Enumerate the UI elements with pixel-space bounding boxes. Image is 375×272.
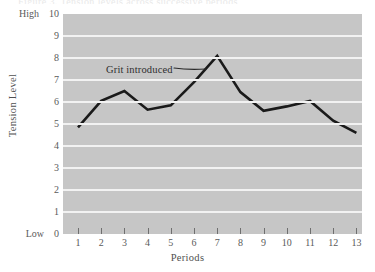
- gridline: [63, 101, 362, 103]
- gridline: [63, 167, 362, 169]
- x-tick-label-3: 3: [112, 237, 136, 248]
- x-tick-label-7: 7: [205, 237, 229, 248]
- y-axis: Tension Level High 10987654321Low 0: [0, 0, 59, 272]
- plot-area: [63, 14, 362, 234]
- y-tick-label-2: 2: [3, 185, 59, 195]
- y-tick-label-6: 6: [3, 97, 59, 107]
- x-tick-label-1: 1: [66, 237, 90, 248]
- x-tick-mark-8: [240, 228, 241, 234]
- y-tick-label-9: 9: [3, 31, 59, 41]
- gridline: [63, 57, 362, 59]
- gridline: [63, 35, 362, 37]
- x-tick-label-9: 9: [252, 237, 276, 248]
- chart-container: Figure 3. Tension levels across successi…: [0, 0, 375, 272]
- gridline: [63, 211, 362, 213]
- x-tick-label-6: 6: [182, 237, 206, 248]
- x-tick-mark-12: [333, 228, 334, 234]
- gridline: [63, 123, 362, 125]
- x-tick-mark-4: [148, 228, 149, 234]
- x-tick-mark-7: [217, 228, 218, 234]
- x-tick-mark-1: [78, 228, 79, 234]
- x-tick-mark-9: [264, 228, 265, 234]
- x-tick-mark-13: [356, 228, 357, 234]
- x-tick-label-12: 12: [321, 237, 345, 248]
- x-axis-title: Periods: [0, 252, 375, 263]
- gridline: [63, 145, 362, 147]
- x-tick-label-2: 2: [89, 237, 113, 248]
- x-tick-mark-5: [171, 228, 172, 234]
- x-tick-mark-2: [101, 228, 102, 234]
- y-tick-label-4: 4: [3, 141, 59, 151]
- y-tick-label-3: 3: [3, 163, 59, 173]
- x-tick-label-10: 10: [275, 237, 299, 248]
- x-tick-label-11: 11: [298, 237, 322, 248]
- gridline: [63, 79, 362, 81]
- gridline: [63, 189, 362, 191]
- x-tick-mark-10: [287, 228, 288, 234]
- y-tick-label-10: High 10: [3, 9, 59, 19]
- annotation-leader-line: [174, 68, 206, 69]
- x-tick-mark-3: [124, 228, 125, 234]
- y-tick-label-5: 5: [3, 119, 59, 129]
- x-tick-label-4: 4: [136, 237, 160, 248]
- y-tick-label-7: 7: [3, 75, 59, 85]
- y-tick-label-8: 8: [3, 53, 59, 63]
- x-tick-label-8: 8: [228, 237, 252, 248]
- top-cropped-caption-remnant: Figure 3. Tension levels across successi…: [18, 0, 348, 4]
- annotation-grit-introduced: Grit introduced: [106, 64, 173, 75]
- x-tick-label-5: 5: [159, 237, 183, 248]
- y-tick-label-0: Low 0: [3, 229, 59, 239]
- x-tick-mark-11: [310, 228, 311, 234]
- y-tick-label-1: 1: [3, 207, 59, 217]
- x-tick-label-13: 13: [344, 237, 368, 248]
- x-tick-mark-6: [194, 228, 195, 234]
